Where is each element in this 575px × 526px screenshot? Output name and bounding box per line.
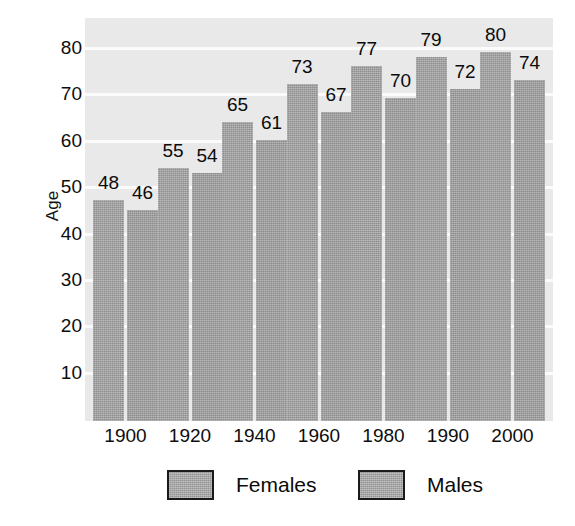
bar-value-label: 74 (508, 53, 551, 72)
bar-females-1960 (287, 84, 318, 421)
y-axis-tick-label: 80 (36, 38, 82, 57)
x-axis-tick-label: 2000 (468, 426, 557, 446)
y-axis-tick-label: 20 (36, 316, 82, 335)
y-axis-tick-label: 50 (36, 177, 82, 196)
legend-swatch-males (358, 470, 405, 500)
legend-swatch-females (167, 470, 214, 500)
bar-females-1990 (416, 57, 447, 421)
y-axis-tick-label: 60 (36, 131, 82, 150)
bar-value-label: 46 (121, 183, 164, 202)
bar-males-1920 (192, 173, 223, 421)
bar-value-label: 77 (345, 39, 388, 58)
bar-females-1980 (351, 66, 382, 421)
bar-chart: Age 1020304050607080 1900192019401960198… (0, 0, 575, 526)
bar-value-label: 80 (474, 25, 517, 44)
y-axis-tick-labels: 1020304050607080 (30, 0, 82, 526)
chart-legend: Females Males (0, 468, 575, 508)
legend-label-males: Males (427, 473, 483, 497)
y-axis-tick-label: 70 (36, 84, 82, 103)
bar-females-2000 (480, 52, 511, 421)
bar-males-1900 (127, 210, 158, 421)
bar-value-label: 70 (379, 71, 422, 90)
bar-males-1980 (385, 98, 416, 421)
bar-females-1940 (222, 122, 253, 421)
bar-value-label: 61 (250, 113, 293, 132)
y-axis-tick-label: 40 (36, 224, 82, 243)
bar-value-label: 67 (315, 85, 358, 104)
bar-males-1940 (256, 140, 287, 421)
y-axis-tick-label: 30 (36, 270, 82, 289)
bar-females-1900 (93, 200, 124, 421)
y-axis-tick-label: 10 (36, 363, 82, 382)
bar-males-2000 (514, 80, 545, 421)
legend-item-females[interactable]: Females (167, 468, 317, 502)
bar-males-1960 (321, 112, 352, 421)
bar-value-label: 72 (444, 62, 487, 81)
bar-females-1920 (158, 168, 189, 421)
bar-value-label: 79 (410, 30, 453, 49)
legend-item-males[interactable]: Males (358, 468, 483, 502)
bar-value-label: 65 (216, 95, 259, 114)
legend-label-females: Females (236, 473, 317, 497)
bar-males-1990 (450, 89, 481, 421)
bar-value-label: 54 (186, 146, 229, 165)
gridline (85, 47, 553, 50)
bar-value-label: 73 (281, 57, 324, 76)
